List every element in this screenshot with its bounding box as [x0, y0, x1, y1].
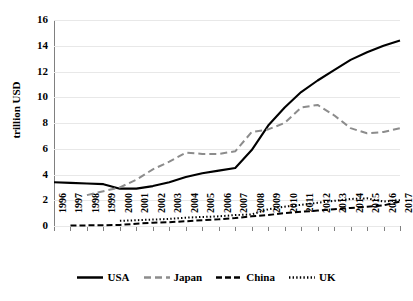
legend-label: China: [246, 272, 275, 283]
series-line-usa: [54, 41, 400, 189]
chart-legend: USAJapanChinaUK: [0, 272, 413, 283]
legend-item-japan[interactable]: Japan: [144, 272, 203, 283]
legend-item-usa[interactable]: USA: [77, 272, 129, 283]
legend-label: USA: [107, 272, 129, 283]
dashed-line-icon: [144, 273, 170, 282]
series-layer: [0, 0, 413, 301]
legend-item-china[interactable]: China: [216, 272, 275, 283]
line-chart: trillion USD 0246810121416 1996199719981…: [0, 0, 413, 301]
solid-line-icon: [77, 273, 103, 282]
dashed-line-icon: [216, 273, 242, 282]
legend-label: UK: [319, 272, 336, 283]
legend-label: Japan: [174, 272, 203, 283]
series-line-uk: [120, 198, 400, 221]
legend-item-uk[interactable]: UK: [289, 272, 336, 283]
dotted-line-icon: [289, 273, 315, 282]
series-line-japan: [87, 105, 400, 195]
series-line-china: [70, 202, 400, 226]
